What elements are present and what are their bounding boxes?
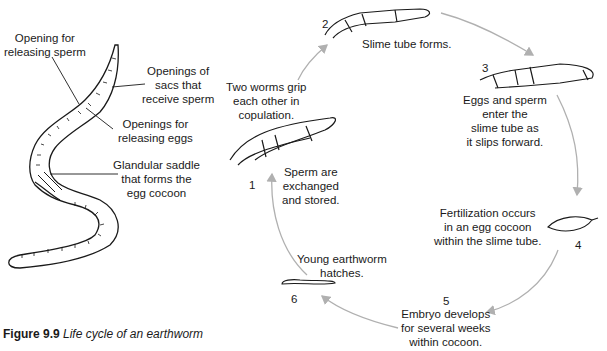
label-line: releasing eggs [118, 131, 193, 145]
label-line: copulation. [226, 108, 307, 122]
figure-number: Figure 9.9 [3, 327, 60, 341]
label-line: it slips forward. [463, 135, 547, 149]
label-line: that forms the [113, 172, 200, 186]
label-line: Opening for [4, 31, 86, 45]
label-line: sacs that [142, 78, 214, 92]
stage1-text-sperm: Sperm are exchanged and stored. [282, 165, 340, 207]
stage2-worm [325, 9, 430, 38]
stage3-number: 3 [482, 62, 488, 74]
adult-earthworm-illustration [9, 45, 119, 268]
stage6-text: Young earthworm hatches. [297, 252, 387, 280]
label-line: Two worms grip [226, 80, 307, 94]
label-line: Eggs and sperm [463, 93, 547, 107]
stage1-number: 1 [249, 179, 255, 191]
label-line: Young earthworm [297, 252, 387, 266]
stage2-number: 2 [322, 18, 328, 30]
label-line: slime tube as [463, 121, 547, 135]
label-line: each other in [226, 94, 307, 108]
stage5-text: Embryo develops for several weeks within… [401, 307, 490, 349]
label-line: Fertilization occurs [434, 206, 541, 220]
figure-title: Life cycle of an earthworm [63, 327, 203, 341]
label-openings-eggs: Openings for releasing eggs [118, 117, 193, 145]
label-line: egg cocoon [113, 186, 200, 200]
egg-cocoon [548, 217, 598, 231]
label-line: Openings of [142, 64, 214, 78]
stage4-text: Fertilization occurs in an egg cocoon wi… [434, 206, 541, 248]
label-line: exchanged [282, 179, 340, 193]
figure-caption: Figure 9.9 Life cycle of an earthworm [3, 327, 203, 341]
label-line: and stored. [282, 193, 340, 207]
stage1-worms [230, 118, 335, 165]
label-line: enter the [463, 107, 547, 121]
label-openings-sacs: Openings of sacs that receive sperm [142, 64, 214, 106]
young-earthworm [282, 280, 335, 285]
label-line: in an egg cocoon [434, 220, 541, 234]
label-line: releasing sperm [4, 45, 86, 59]
stage2-text: Slime tube forms. [362, 37, 451, 51]
label-line: Sperm are [282, 165, 340, 179]
label-line: Embryo develops [401, 307, 490, 321]
stage1-text-copulation: Two worms grip each other in copulation. [226, 80, 307, 122]
label-line: Openings for [118, 117, 193, 131]
label-line: within cocoon. [401, 335, 490, 349]
stage6-number: 6 [291, 293, 297, 305]
stage3-worm [480, 64, 593, 88]
label-line: Glandular saddle [113, 158, 200, 172]
stage4-number: 4 [575, 239, 581, 251]
label-line: within the slime tube. [434, 234, 541, 248]
label-opening-sperm: Opening for releasing sperm [4, 31, 86, 59]
label-line: hatches. [297, 266, 387, 280]
label-line: for several weeks [401, 321, 490, 335]
stage5-number: 5 [443, 295, 449, 307]
stage3-text: Eggs and sperm enter the slime tube as i… [463, 93, 547, 149]
label-line: receive sperm [142, 92, 214, 106]
label-glandular-saddle: Glandular saddle that forms the egg coco… [113, 158, 200, 200]
label-line: Slime tube forms. [362, 37, 451, 51]
